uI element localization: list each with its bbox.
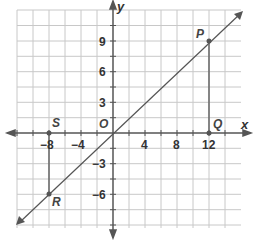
x-axis-left-arrow-icon	[7, 130, 15, 136]
y-tick-3: 3	[99, 96, 106, 110]
y-axis-down-arrow-icon	[110, 230, 116, 238]
point-P	[207, 39, 212, 44]
point-S	[47, 131, 52, 136]
y-tick-6: 6	[99, 65, 106, 79]
label-R: R	[52, 195, 61, 209]
x-tick-m4: −4	[71, 138, 85, 152]
coordinate-plane: P Q S R O y x −8 −4 4 8 12 9 6 3 −3 −6	[0, 0, 256, 240]
y-axis-label: y	[116, 0, 125, 14]
y-axis-up-arrow-icon	[110, 1, 116, 9]
x-tick-8: 8	[173, 138, 180, 152]
point-R	[47, 192, 52, 197]
x-tick-labels: −8 −4 4 8 12	[40, 138, 216, 152]
y-tick-m3: −3	[92, 157, 106, 171]
label-Q: Q	[213, 117, 223, 131]
point-Q	[207, 131, 212, 136]
y-tick-9: 9	[99, 35, 106, 49]
label-P: P	[196, 27, 205, 41]
y-tick-m6: −6	[92, 188, 106, 202]
x-tick-4: 4	[141, 138, 148, 152]
label-origin: O	[99, 117, 109, 131]
x-tick-m8: −8	[40, 138, 54, 152]
label-S: S	[52, 116, 60, 130]
x-axis-label: x	[240, 117, 249, 132]
x-tick-12: 12	[202, 138, 216, 152]
